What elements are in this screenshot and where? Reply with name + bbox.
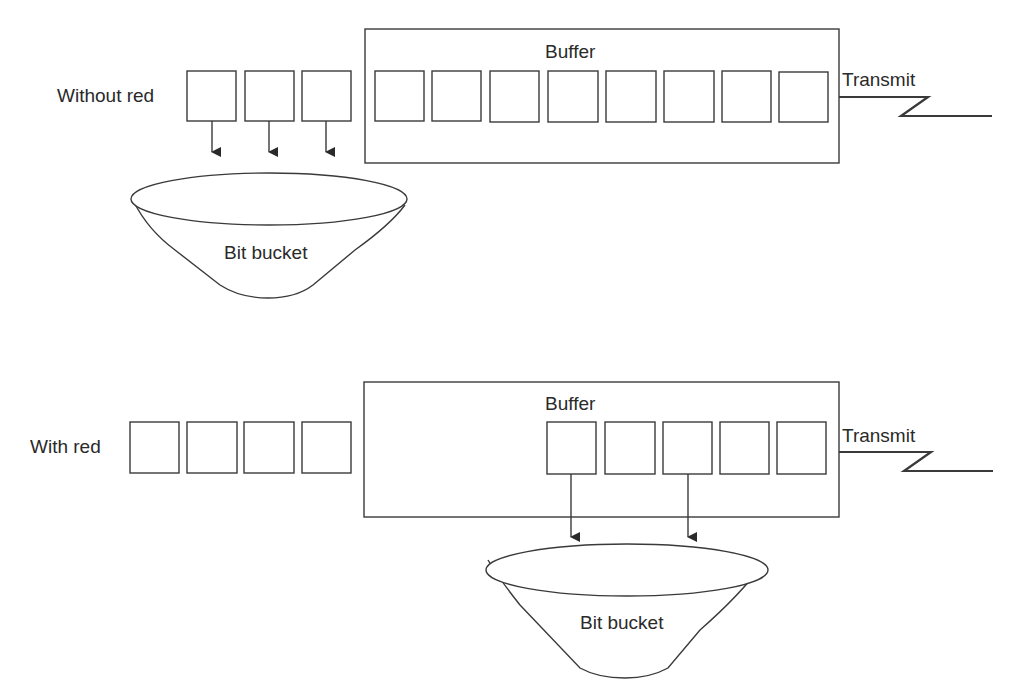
buffer-box — [365, 29, 839, 163]
without-red-label: Without red — [57, 85, 154, 106]
transmit-link-icon — [839, 452, 993, 471]
buffer-label: Buffer — [545, 393, 596, 414]
incoming-packet — [187, 422, 237, 473]
incoming-packet — [244, 422, 294, 473]
incoming-packet — [302, 71, 351, 121]
incoming-packet — [245, 71, 294, 121]
buffer-slot — [375, 71, 424, 121]
buffer-box — [364, 382, 839, 517]
buffer-label: Buffer — [545, 41, 596, 62]
buffer-slot — [720, 422, 769, 474]
red-diagram: Without red Buffer Transmit Bit bucket W — [0, 0, 1025, 699]
incoming-packet — [302, 422, 351, 473]
buffer-slot — [548, 71, 598, 122]
buffer-slot — [664, 71, 714, 122]
without-red-section: Without red Buffer Transmit Bit bucket — [57, 29, 992, 298]
buffer-slot — [663, 422, 712, 474]
buffer-slot — [722, 71, 771, 122]
transmit-label: Transmit — [842, 425, 916, 446]
incoming-packet — [130, 422, 179, 473]
buffer-slot — [490, 71, 539, 122]
bit-bucket-icon — [131, 173, 407, 298]
bit-bucket-label: Bit bucket — [224, 242, 308, 263]
transmit-link-icon — [839, 97, 992, 116]
buffer-slot — [779, 72, 828, 122]
bit-bucket-icon — [486, 544, 768, 678]
buffer-slot — [547, 422, 596, 474]
with-red-label: With red — [30, 436, 101, 457]
bit-bucket-label: Bit bucket — [580, 612, 664, 633]
incoming-packet — [187, 71, 236, 121]
buffer-slot — [777, 422, 826, 474]
with-red-section: With red Buffer Transmit Bit bucket — [30, 382, 993, 678]
transmit-label: Transmit — [842, 69, 916, 90]
buffer-slot — [432, 71, 481, 121]
buffer-slot — [605, 422, 655, 474]
buffer-slot — [606, 71, 656, 122]
